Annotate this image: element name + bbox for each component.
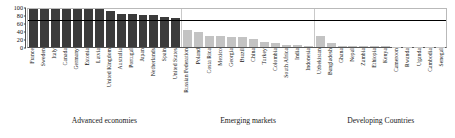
category-slot: Bangladesh: [325, 48, 336, 114]
category-slot: United States: [171, 48, 182, 114]
bar[interactable]: [29, 9, 38, 47]
bar[interactable]: [327, 43, 336, 47]
bar[interactable]: [51, 9, 60, 47]
bar[interactable]: [62, 9, 71, 47]
category-slot: Senegal: [436, 48, 447, 114]
category-tick-label: Portugal: [129, 48, 135, 69]
bar[interactable]: [216, 36, 225, 47]
bar-slot: [259, 9, 270, 47]
category-slot: Ghana: [336, 48, 347, 114]
category-slot: Sweden: [38, 48, 49, 114]
category-group-2: Russian FederationPolandCosta RicaMexico…: [182, 48, 315, 114]
category-tick-label: Netherlands: [151, 48, 157, 77]
category-tick-label: Indonesia: [306, 48, 312, 72]
category-slot: India: [292, 48, 303, 114]
bar-slot: [237, 9, 248, 47]
bar[interactable]: [95, 9, 104, 47]
category-slot: United Kingdom: [104, 48, 115, 114]
bar[interactable]: [183, 30, 192, 47]
bar[interactable]: [160, 17, 169, 47]
bar[interactable]: [128, 14, 137, 47]
bar-slot: [369, 9, 380, 47]
bar[interactable]: [40, 9, 49, 47]
bar[interactable]: [73, 9, 82, 47]
category-slot: France: [27, 48, 38, 114]
bar-slot: [138, 9, 149, 47]
category-tick-label: Colombia: [273, 48, 279, 72]
category-slot: Russian Federation: [182, 48, 193, 114]
category-slot: Nepal: [348, 48, 359, 114]
category-tick-label: Costa Rica: [207, 48, 213, 74]
bar-slot: [326, 9, 337, 47]
category-tick-label: Zambia: [361, 48, 367, 67]
category-slot: South Africa: [281, 48, 292, 114]
category-slot: Cameroon: [392, 48, 403, 114]
category-slot: Turkey: [259, 48, 270, 114]
bar[interactable]: [227, 37, 236, 47]
category-slot: Japan: [137, 48, 148, 114]
bar-group-2: [181, 9, 313, 47]
category-tick-label: Germany: [74, 48, 80, 71]
category-tick-label: Ghana: [339, 48, 345, 64]
category-slot: Spain: [160, 48, 171, 114]
y-axis: 020406080100: [0, 8, 26, 48]
bar[interactable]: [84, 9, 93, 47]
category-slot: Zambia: [359, 48, 370, 114]
bar-slot: [116, 9, 127, 47]
bar-slot: [380, 9, 391, 47]
plot-area: [27, 8, 447, 48]
bar-panels: [28, 9, 446, 47]
bar[interactable]: [194, 32, 203, 47]
category-panels: FranceSwedenItalyCanadaGermanyEstoniaLat…: [27, 48, 447, 114]
bar[interactable]: [106, 11, 115, 47]
y-tick-label: 40: [17, 29, 23, 35]
category-slot: Rwanda: [403, 48, 414, 114]
bar[interactable]: [293, 45, 302, 47]
category-tick-label: Australia: [118, 48, 124, 70]
bar[interactable]: [171, 18, 180, 47]
bar-slot: [391, 9, 402, 47]
category-tick-label: Rwanda: [405, 48, 411, 68]
bar[interactable]: [316, 36, 325, 47]
bar-slot: [413, 9, 424, 47]
bar-slot: [72, 9, 83, 47]
bar-slot: [315, 9, 326, 47]
bar-slot: [248, 9, 259, 47]
bar-slot: [127, 9, 138, 47]
category-slot: Germany: [71, 48, 82, 114]
category-slot: Australia: [115, 48, 126, 114]
bar-slot: [402, 9, 413, 47]
bar[interactable]: [260, 42, 269, 47]
category-slot: Canada: [60, 48, 71, 114]
category-tick-label: Ethiopia: [372, 48, 378, 69]
category-slot: Costa Rica: [204, 48, 215, 114]
category-slot: Colombia: [270, 48, 281, 114]
category-tick-label: Bangladesh: [328, 48, 334, 76]
y-tick-mark: [24, 48, 26, 49]
bar[interactable]: [271, 43, 280, 47]
bar[interactable]: [338, 46, 347, 47]
bar-slot: [270, 9, 281, 47]
category-tick-label: France: [30, 48, 36, 65]
bar[interactable]: [117, 14, 126, 47]
bar-slot: [182, 9, 193, 47]
category-tick-label: Mexico: [218, 48, 224, 67]
category-slot: China: [248, 48, 259, 114]
bar[interactable]: [149, 15, 158, 47]
bar[interactable]: [139, 15, 148, 47]
bar[interactable]: [249, 39, 258, 47]
category-group-3: UzbekistanBangladeshGhanaNepalZambiaEthi…: [314, 48, 447, 114]
bar-slot: [61, 9, 72, 47]
bar-slot: [39, 9, 50, 47]
bar[interactable]: [205, 36, 214, 47]
bar[interactable]: [381, 46, 390, 47]
bar-slot: [281, 9, 292, 47]
category-slot: Uganda: [414, 48, 425, 114]
bar[interactable]: [238, 37, 247, 47]
bar-slot: [94, 9, 105, 47]
bar-slot: [303, 9, 314, 47]
category-tick-label: Sweden: [41, 48, 47, 67]
bar-slot: [105, 9, 116, 47]
bar-slot: [337, 9, 348, 47]
y-axis-spine: [25, 8, 26, 48]
